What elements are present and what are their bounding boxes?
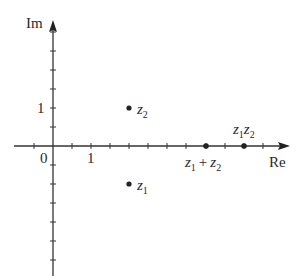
label-z1: z1	[136, 177, 148, 196]
point-z1-times-z2	[241, 143, 247, 149]
point-z1	[126, 181, 131, 186]
complex-plane-diagram: Im Re 0 1 1 z2 z1 z1+z2 z1z2	[0, 0, 304, 276]
point-z2	[126, 105, 131, 110]
imaginary-axis-label: Im	[26, 15, 43, 31]
label-z2: z2	[136, 101, 148, 120]
origin-label: 0	[40, 150, 48, 166]
real-axis-label: Re	[269, 154, 286, 170]
label-z1-times-z2: z1z2	[232, 121, 255, 140]
point-z1-plus-z2	[203, 143, 209, 149]
imag-tick-label-1: 1	[37, 100, 45, 116]
label-z1-plus-z2: z1+z2	[184, 154, 221, 173]
real-tick-label-1: 1	[87, 150, 95, 166]
